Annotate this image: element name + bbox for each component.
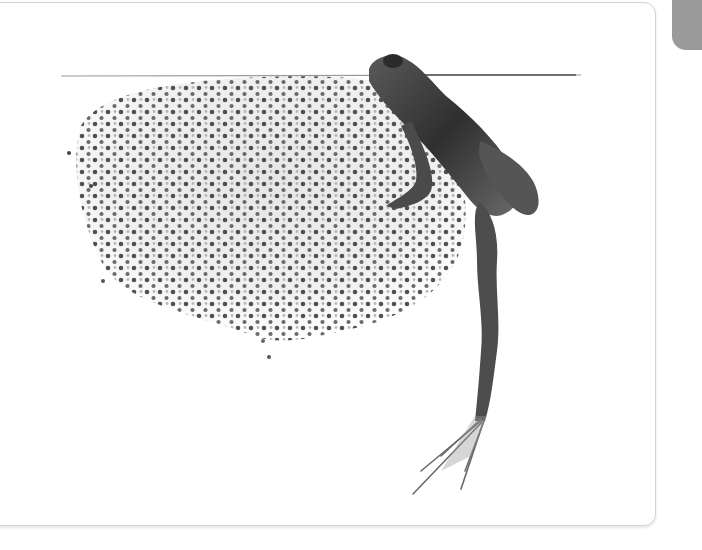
side-tab — [672, 0, 702, 50]
water-surface-line — [61, 75, 581, 76]
photo-card — [0, 2, 656, 526]
frog-and-frogspawn-photo — [1, 2, 656, 526]
